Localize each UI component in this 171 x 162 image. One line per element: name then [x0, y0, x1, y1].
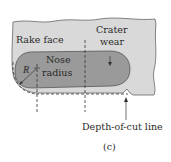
depth-arrowhead [124, 97, 128, 102]
tool-wear-diagram: Rake face Crater wear Nose radius R Dept… [0, 0, 171, 162]
crater-label-line1: Crater [96, 24, 128, 35]
figure-caption: (c) [103, 141, 116, 152]
crater-label-line2: wear [100, 36, 124, 47]
rake-face-label: Rake face [16, 34, 64, 45]
crater-wear-region [15, 51, 130, 88]
nose-label-line2: radius [42, 67, 72, 78]
radius-symbol: R [22, 64, 29, 75]
depth-of-cut-label: Depth-of-cut line [82, 121, 163, 132]
nose-label-line1: Nose [46, 54, 71, 65]
